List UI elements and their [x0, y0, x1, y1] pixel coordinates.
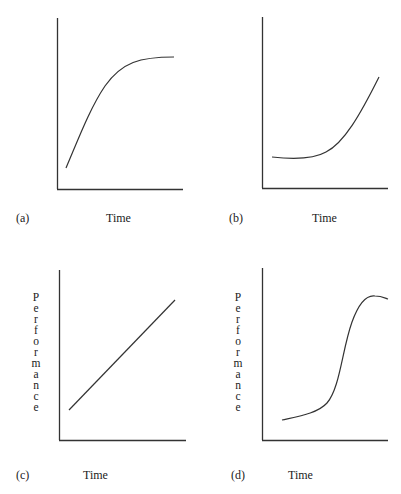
panel-c	[59, 270, 186, 441]
panel-a-tag: (a)	[16, 212, 29, 224]
panel-d-tag: (d)	[231, 469, 245, 481]
panel-c-ylabel: P e r f o r m a n c e	[30, 292, 42, 413]
ylabel-letter: e	[30, 402, 42, 413]
panel-b-curve	[272, 77, 379, 158]
panel-d-ylabel: P e r f o r m a n c e	[232, 292, 244, 413]
panel-a-xlabel: Time	[106, 212, 131, 224]
panel-a	[57, 18, 183, 190]
panel-b-tag: (b)	[229, 212, 243, 224]
panel-d-xlabel: Time	[288, 469, 313, 481]
panel-d	[262, 268, 388, 441]
panel-b	[262, 17, 388, 189]
panel-a-curve	[66, 57, 174, 168]
panel-c-xlabel: Time	[83, 469, 108, 481]
figure-canvas	[0, 0, 401, 494]
panel-c-tag: (c)	[16, 469, 29, 481]
panel-b-xlabel: Time	[312, 212, 337, 224]
ylabel-letter: e	[232, 402, 244, 413]
panel-d-curve	[282, 296, 388, 420]
panel-c-line	[69, 300, 175, 410]
